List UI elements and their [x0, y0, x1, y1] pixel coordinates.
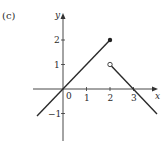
x-axis-label: x — [155, 91, 160, 101]
x-tick-label-0: 0 — [66, 91, 72, 101]
series-piece-1 — [37, 40, 110, 116]
y-tick-label-2: 2 — [54, 35, 60, 45]
x-tick-label-1: 1 — [84, 93, 90, 103]
y-axis-arrow-icon — [61, 13, 66, 19]
x-tick-label-2: 2 — [108, 93, 114, 103]
y-axis-label: y — [54, 10, 61, 20]
piecewise-function-graph: (c) x y 0 1 2 3 2 1 −1 — [0, 0, 167, 146]
closed-dot-marker — [108, 38, 112, 42]
y-tick-label-neg1: −1 — [48, 109, 61, 119]
axes: x y — [33, 10, 160, 141]
x-tick-label-3: 3 — [131, 93, 137, 103]
y-tick-label-1: 1 — [54, 60, 60, 70]
open-dot-marker — [108, 62, 112, 66]
panel-label: (c) — [2, 10, 16, 21]
